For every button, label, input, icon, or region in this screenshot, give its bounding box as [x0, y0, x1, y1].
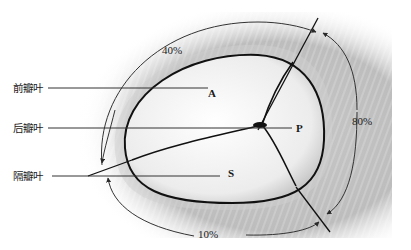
percent-top: 40%: [162, 44, 182, 56]
label-septal-leaflet: 隔瓣叶: [13, 170, 43, 182]
tricuspid-valve-diagram: 前瓣叶 后瓣叶 隔瓣叶 A P S 40% 80% 10%: [0, 0, 411, 250]
letter-septal: S: [228, 167, 234, 179]
diagram-canvas: [0, 0, 411, 250]
percent-bottom: 10%: [198, 228, 218, 240]
letter-anterior: A: [208, 87, 216, 99]
label-posterior-leaflet: 后瓣叶: [13, 122, 43, 134]
percent-right: 80%: [352, 115, 372, 127]
letter-posterior: P: [296, 122, 303, 134]
label-anterior-leaflet: 前瓣叶: [13, 82, 43, 94]
